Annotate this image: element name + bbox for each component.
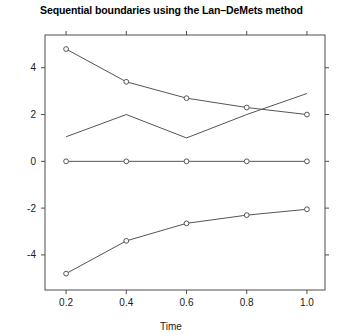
- chart-plot-area: 0.20.40.60.81.0-4-2024 Time: [0, 0, 343, 336]
- data-point-marker: [244, 213, 249, 218]
- series-line: [66, 49, 307, 115]
- x-tick-label: 0.8: [240, 297, 254, 308]
- y-tick-label: 4: [30, 62, 36, 73]
- data-point-marker: [124, 79, 129, 84]
- data-point-marker: [184, 159, 189, 164]
- data-point-marker: [305, 159, 310, 164]
- x-tick-label: 1.0: [300, 297, 314, 308]
- data-point-marker: [244, 105, 249, 110]
- data-point-marker: [305, 112, 310, 117]
- series-line: [66, 209, 307, 273]
- y-tick-label: -4: [27, 249, 36, 260]
- x-tick-label: 0.6: [180, 297, 194, 308]
- y-tick-label: 2: [30, 109, 36, 120]
- data-point-marker: [64, 47, 69, 52]
- data-point-marker: [305, 207, 310, 212]
- x-tick-label: 0.2: [59, 297, 73, 308]
- data-point-marker: [184, 96, 189, 101]
- series-zero-line: [64, 159, 310, 164]
- series-lower-boundary: [64, 207, 310, 276]
- y-tick-label: 0: [30, 156, 36, 167]
- data-point-marker: [124, 159, 129, 164]
- x-tick-label: 0.4: [119, 297, 133, 308]
- chart-root: Sequential boundaries using the Lan–DeMe…: [0, 0, 343, 336]
- y-tick-label: -2: [27, 203, 36, 214]
- data-point-marker: [184, 221, 189, 226]
- data-point-marker: [64, 271, 69, 276]
- x-axis-title: Time: [160, 321, 182, 332]
- data-point-marker: [244, 159, 249, 164]
- series-upper-boundary: [64, 47, 310, 117]
- data-point-marker: [124, 238, 129, 243]
- data-point-marker: [64, 159, 69, 164]
- data-series-group: [64, 47, 310, 276]
